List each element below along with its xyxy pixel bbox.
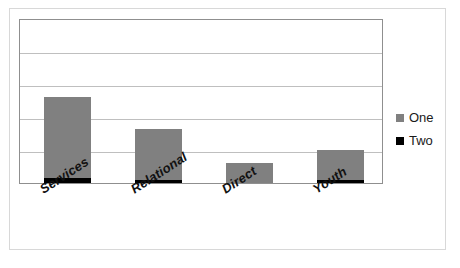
category-axis-labels: ServicesRelationalDirectYouth (19, 184, 383, 248)
chart-legend: OneTwo (396, 108, 448, 154)
legend-item-two[interactable]: Two (396, 131, 448, 150)
chart-figure: ServicesRelationalDirectYouth OneTwo (0, 0, 460, 268)
legend-label: Two (409, 134, 433, 147)
gray-square-icon (396, 114, 404, 122)
legend-item-one[interactable]: One (396, 108, 448, 127)
legend-label: One (409, 111, 434, 124)
black-square-icon (396, 137, 404, 145)
